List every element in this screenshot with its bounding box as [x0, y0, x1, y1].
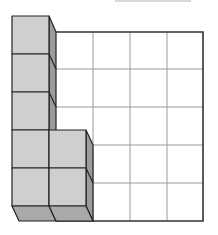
- top-divider: [115, 0, 191, 2]
- diagram-canvas: [0, 0, 218, 235]
- cube-column-2: [49, 130, 93, 221]
- cube-grid-diagram: [0, 0, 218, 235]
